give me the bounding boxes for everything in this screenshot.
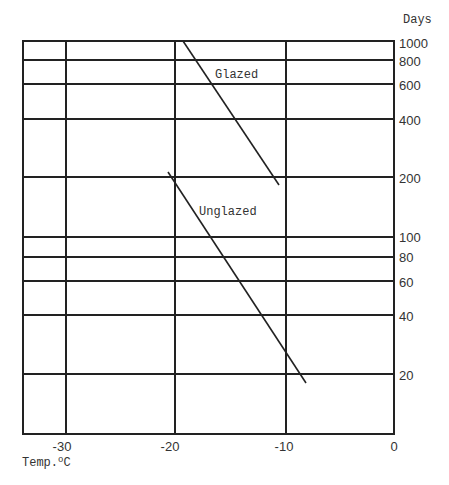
y-tick-200: 200: [399, 171, 421, 186]
y-tick-80: 80: [399, 250, 413, 265]
celsius-symbol: C: [63, 456, 70, 470]
y-tick-600: 600: [399, 78, 421, 93]
chart-svg: Glazed Unglazed Days 1000 800 600 400 20…: [0, 0, 449, 485]
y-tick-800: 800: [399, 54, 421, 69]
y-tick-1000: 1000: [399, 36, 428, 51]
x-axis-label-text: Temp.: [22, 456, 58, 470]
y-tick-60: 60: [399, 275, 413, 290]
y-tick-labels: 1000 800 600 400 200 100 80 60 40 20: [399, 36, 428, 383]
x-tick-labels: -30 -20 -10 0: [53, 439, 398, 454]
x-tick-minus10: -10: [275, 439, 294, 454]
x-tick-minus30: -30: [53, 439, 72, 454]
y-tick-40: 40: [399, 309, 413, 324]
series-glazed-line: [183, 41, 279, 185]
grid: [23, 41, 394, 434]
annotation-unglazed: Unglazed: [199, 205, 257, 219]
x-axis-label: Temp.oC: [22, 455, 71, 470]
y-axis-unit: Days: [403, 13, 432, 27]
x-tick-0: 0: [390, 439, 397, 454]
y-tick-100: 100: [399, 230, 421, 245]
annotation-glazed: Glazed: [215, 68, 258, 82]
y-tick-400: 400: [399, 113, 421, 128]
y-tick-20: 20: [399, 368, 413, 383]
x-tick-minus20: -20: [161, 439, 180, 454]
